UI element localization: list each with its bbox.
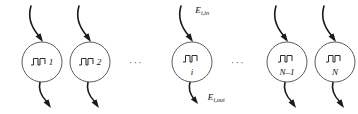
incoming-arrow-head-node-n xyxy=(329,33,337,42)
incoming-arrow-head-node-i xyxy=(186,33,194,42)
node-label-n-minus-1: N–1 xyxy=(279,67,294,77)
neuron-chain-figure: 1 2 i N–1 N ··· ··· Ei,in Ei,out xyxy=(0,0,358,114)
node-label-2: 2 xyxy=(97,57,102,67)
incoming-arrow-head-node-n-minus-1 xyxy=(281,33,289,42)
energy-output-label: Ei,out xyxy=(208,92,225,102)
energy-output-subscript: i,out xyxy=(213,96,224,103)
node-label-1: 1 xyxy=(49,57,54,67)
outgoing-arrow-line-node-i xyxy=(189,82,194,99)
incoming-arrow-head-node-2 xyxy=(84,33,92,42)
outgoing-arrow-line-node-n-minus-1 xyxy=(284,82,292,102)
outgoing-arrow-line-node-n xyxy=(332,82,340,102)
node-circle-1[interactable] xyxy=(22,42,62,82)
incoming-arrows xyxy=(30,6,336,42)
node-label-n: N xyxy=(332,67,338,77)
node-circles xyxy=(22,42,355,82)
incoming-arrow-node-n xyxy=(323,6,336,42)
energy-input-subscript: i,in xyxy=(201,9,209,16)
incoming-arrow-line-node-n xyxy=(323,6,332,36)
outgoing-arrow-line-node-2 xyxy=(87,82,95,102)
outgoing-arrow-node-n xyxy=(332,82,344,108)
energy-input-label: Ei,in xyxy=(195,5,209,15)
incoming-arrow-node-1 xyxy=(30,6,43,42)
incoming-arrow-head-node-1 xyxy=(36,33,44,42)
figure-canvas xyxy=(0,0,358,114)
incoming-arrow-line-node-n-minus-1 xyxy=(275,6,284,36)
ellipsis-right: ··· xyxy=(231,57,245,68)
outgoing-arrow-line-node-1 xyxy=(39,82,47,102)
incoming-arrow-node-2 xyxy=(78,6,91,42)
incoming-arrow-line-node-1 xyxy=(30,6,39,36)
outgoing-arrows xyxy=(39,82,344,108)
energy-input-symbol: E xyxy=(195,5,201,15)
outgoing-arrow-node-2 xyxy=(87,82,99,108)
ellipsis-left: ··· xyxy=(129,57,143,68)
energy-output-symbol: E xyxy=(208,92,214,102)
incoming-arrow-node-i xyxy=(180,6,193,42)
node-circle-2[interactable] xyxy=(70,42,110,82)
outgoing-arrow-node-n-minus-1 xyxy=(284,82,296,108)
outgoing-arrow-node-1 xyxy=(39,82,51,108)
incoming-arrow-node-n-minus-1 xyxy=(275,6,288,42)
incoming-arrow-line-node-2 xyxy=(78,6,87,36)
incoming-arrow-line-node-i xyxy=(180,6,189,36)
node-label-i: i xyxy=(191,67,194,77)
outgoing-arrow-node-i xyxy=(189,82,198,104)
